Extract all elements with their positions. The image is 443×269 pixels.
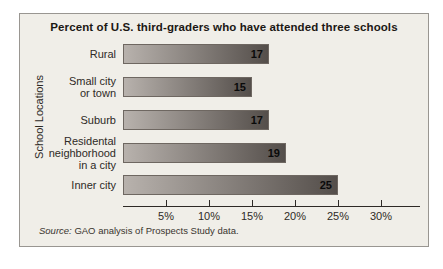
x-axis-tick-label: 20% — [284, 210, 306, 222]
x-axis-tick-mark — [338, 200, 339, 206]
x-axis-tick-label: 30% — [370, 210, 392, 222]
bar: 25 — [123, 175, 338, 195]
category-label: Rural — [20, 48, 116, 60]
x-axis-tick-label: 5% — [158, 210, 174, 222]
bar: 17 — [123, 110, 269, 130]
x-axis-tick-mark — [252, 200, 253, 206]
x-axis-tick-mark — [166, 200, 167, 206]
x-axis-tick-mark — [295, 200, 296, 206]
bar-value-label: 17 — [251, 114, 263, 126]
source-prefix: Source: — [39, 225, 72, 236]
x-axis-tick-mark — [381, 200, 382, 206]
chart-title: Percent of U.S. third-graders who have a… — [20, 21, 428, 33]
bar: 17 — [123, 44, 269, 64]
x-axis-tick-label: 10% — [198, 210, 220, 222]
x-axis-tick-label: 15% — [241, 210, 263, 222]
bar-value-label: 17 — [251, 48, 263, 60]
bar: 15 — [123, 77, 252, 97]
bar-value-label: 25 — [320, 179, 332, 191]
x-axis-tick-label: 25% — [327, 210, 349, 222]
source-text: GAO analysis of Prospects Study data. — [72, 225, 239, 236]
source-note: Source: GAO analysis of Prospects Study … — [39, 225, 239, 236]
bar-value-label: 19 — [268, 147, 280, 159]
bar-value-label: 15 — [234, 81, 246, 93]
category-label: Inner city — [20, 179, 116, 191]
page: { "chart_data": { "type": "bar", "orient… — [0, 0, 443, 269]
x-axis-tick-mark — [209, 200, 210, 206]
category-label: Suburb — [20, 114, 116, 126]
category-label: Small city or town — [20, 75, 116, 99]
bar: 19 — [123, 143, 286, 163]
category-label: Residental neighborhood in a city — [20, 135, 116, 171]
x-axis-line — [123, 206, 420, 207]
chart-panel: Percent of U.S. third-graders who have a… — [19, 13, 429, 247]
